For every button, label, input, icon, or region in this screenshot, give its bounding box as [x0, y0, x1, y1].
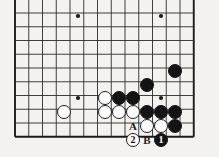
white-stone[interactable] — [140, 119, 154, 133]
white-stone[interactable] — [98, 91, 112, 105]
stone-move-number: 2 — [130, 135, 135, 145]
white-stone[interactable] — [112, 105, 126, 119]
black-stone[interactable] — [112, 91, 126, 105]
white-stone-move-2[interactable]: 2 — [126, 133, 140, 147]
stone-move-number: 1 — [158, 135, 163, 145]
white-stone[interactable] — [98, 105, 112, 119]
black-stone[interactable] — [154, 105, 168, 119]
white-stone[interactable] — [57, 105, 71, 119]
black-stone[interactable] — [126, 91, 140, 105]
black-stone[interactable] — [168, 105, 182, 119]
black-stone[interactable] — [140, 105, 154, 119]
point-label-a[interactable]: A — [126, 119, 140, 133]
star-point — [76, 14, 80, 18]
black-stone-move-1[interactable]: 1 — [154, 133, 168, 147]
black-stone[interactable] — [168, 64, 182, 78]
black-stone[interactable] — [140, 78, 154, 92]
star-point — [76, 96, 80, 100]
point-label-b[interactable]: B — [140, 133, 154, 147]
white-stone[interactable] — [126, 105, 140, 119]
star-point — [159, 96, 163, 100]
go-diagram: 12 AB — [0, 0, 219, 157]
star-point — [159, 14, 163, 18]
white-stone[interactable] — [154, 119, 168, 133]
black-stone[interactable] — [168, 119, 182, 133]
go-board-grid — [0, 0, 219, 157]
